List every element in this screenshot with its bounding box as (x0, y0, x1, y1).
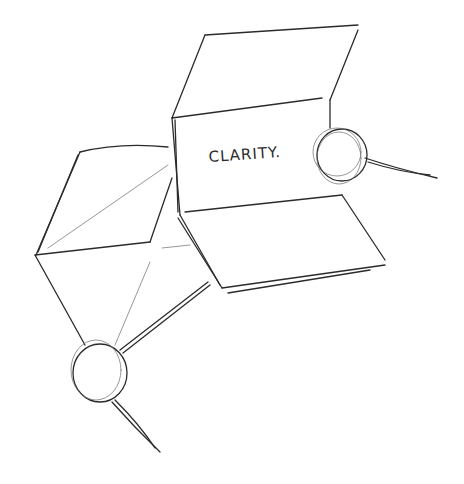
left-paper (35, 145, 210, 353)
left-hand (71, 340, 160, 452)
right-hand (313, 128, 437, 184)
sketch-drawing (0, 0, 464, 484)
